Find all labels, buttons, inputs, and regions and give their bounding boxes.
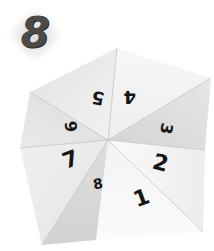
flap-number-4: 4 [123,87,136,108]
fortune-teller-flaps [20,48,211,245]
paper-fortune-teller: 1 2 3 4 5 6 7 8 [0,0,214,251]
